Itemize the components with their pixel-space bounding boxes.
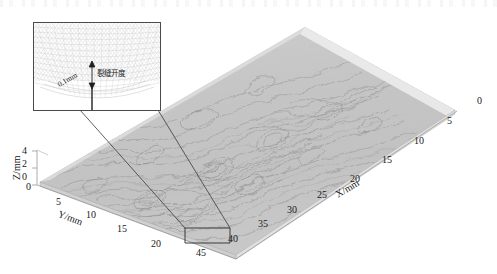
y-tick-5: 5 [56,197,61,207]
x-tick-5: 5 [447,116,452,126]
z-tick-0: 0 [22,172,27,182]
x-tick-35: 35 [258,219,268,229]
z-tick-2: 2 [22,159,27,169]
x-tick-25: 25 [317,190,327,200]
y-tick-0: 0 [26,182,31,192]
y-tick-15: 15 [117,224,127,234]
x-tick-40: 40 [228,234,238,244]
x-tick-10: 10 [414,136,424,146]
inset-magnified-crack: 裂缝开度 0.1mm [33,22,161,111]
y-tick-20: 20 [151,239,161,249]
z-tick-4: 4 [22,146,27,156]
z-axis-label: Z/mm [12,156,22,180]
figure-3d-surface-plot: 裂缝开度 0.1mm 0 5 10 15 20 25 30 35 40 45 X… [0,0,497,274]
y-tick-10: 10 [86,210,96,220]
x-tick-15: 15 [382,155,392,165]
x-tick-0: 0 [477,96,482,106]
crack-aperture-label: 裂缝开度 [97,67,125,78]
x-tick-30: 30 [287,205,297,215]
x-tick-45: 45 [196,248,206,258]
